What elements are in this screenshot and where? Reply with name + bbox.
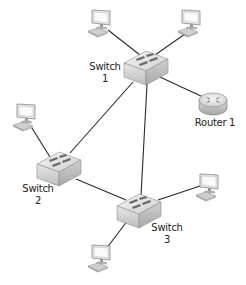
link-switch1-switch2 — [70, 82, 133, 153]
pc-bottom[interactable] — [88, 245, 110, 273]
pc-top-right[interactable] — [178, 10, 200, 38]
pc-right[interactable] — [196, 174, 218, 202]
link-switch1-router1 — [160, 77, 203, 97]
router1-label: Router 1 — [193, 117, 237, 129]
switch2[interactable] — [37, 152, 81, 186]
link-pc-top-right-switch1 — [155, 34, 185, 55]
pc-top-left[interactable] — [88, 10, 110, 38]
router1-label-line1: Router 1 — [193, 117, 237, 129]
switch2-label-line1: Switch — [21, 183, 55, 195]
link-switch2-switch3 — [76, 179, 126, 200]
link-switch3-pc-right — [158, 186, 200, 200]
router1[interactable] — [199, 93, 227, 115]
switch2-label-line2: 2 — [21, 195, 55, 207]
switch3-label-line1: Switch — [150, 222, 184, 234]
switch3-label: Switch 3 — [150, 222, 184, 246]
link-pc-left-switch2 — [30, 125, 50, 157]
link-switch1-switch3 — [141, 84, 147, 196]
switch3-label-line2: 3 — [150, 234, 184, 246]
pc-left[interactable] — [13, 104, 35, 132]
link-pc-top-left-switch1 — [108, 30, 140, 55]
switch1-label: Switch 1 — [88, 61, 122, 85]
switch1[interactable] — [124, 51, 168, 85]
switch1-label-line2: 1 — [88, 73, 122, 85]
network-diagram — [0, 0, 246, 285]
link-switch3-pc-bottom — [106, 220, 128, 249]
switch1-label-line1: Switch — [88, 61, 122, 73]
switch2-label: Switch 2 — [21, 183, 55, 207]
